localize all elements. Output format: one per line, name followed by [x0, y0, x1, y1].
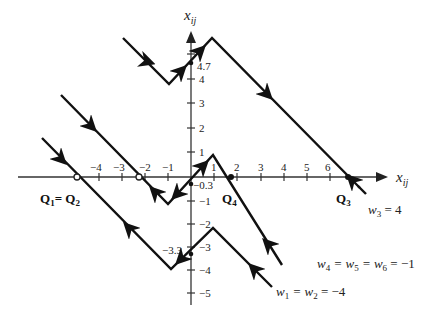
label-neg-3-3: −3.3 — [162, 244, 182, 256]
point-y-4-7 — [189, 61, 194, 66]
svg-text:−4: −4 — [199, 264, 211, 276]
svg-text:−4: −4 — [90, 161, 102, 173]
svg-text:2: 2 — [234, 161, 240, 173]
label-w12: w1 = w2 = −4 — [276, 284, 346, 301]
piecewise-linear-plot: xij xij −4 −3 −2 −1 1 2 3 4 5 6 — [0, 0, 440, 315]
point-q4 — [228, 174, 234, 180]
svg-text:−3: −3 — [199, 241, 211, 253]
svg-text:−1: −1 — [162, 161, 174, 173]
svg-text:−2: −2 — [139, 161, 151, 173]
point-y-neg-3-3 — [189, 252, 194, 257]
x-axis-label: xij — [395, 169, 408, 188]
label-q3: Q3 — [336, 191, 351, 208]
svg-text:4: 4 — [199, 73, 205, 85]
diagram: xij xij −4 −3 −2 −1 1 2 3 4 5 6 — [0, 0, 440, 315]
point-q3 — [345, 174, 351, 180]
svg-text:−1: −1 — [199, 195, 211, 207]
label-4-7: 4.7 — [197, 60, 211, 72]
x-axis-arrow-icon — [376, 172, 388, 182]
label-w3: w3 = 4 — [368, 202, 402, 219]
svg-text:−3: −3 — [113, 161, 125, 173]
curve-w456 — [61, 95, 282, 265]
svg-text:6: 6 — [325, 161, 331, 173]
svg-text:−5: −5 — [199, 287, 211, 299]
svg-text:4: 4 — [281, 161, 287, 173]
open-circle-neg-2 — [136, 174, 142, 180]
svg-text:1: 1 — [199, 146, 205, 158]
label-neg-0-3: −0.3 — [193, 179, 213, 191]
label-q4: Q4 — [222, 191, 237, 208]
open-circle-q1-q2 — [74, 174, 80, 180]
svg-text:5: 5 — [304, 161, 310, 173]
point-y-neg-0-3 — [189, 182, 194, 187]
label-w456: w4 = w5 = w6 = −1 — [317, 256, 415, 273]
svg-text:1: 1 — [211, 161, 217, 173]
svg-text:3: 3 — [199, 97, 205, 109]
label-q1-q2: Q1= Q2 — [40, 191, 80, 208]
y-axis-label: xij — [183, 7, 196, 26]
svg-text:2: 2 — [199, 122, 205, 134]
y-tick-labels: 4 3 2 1 −1 −2 −3 −4 −5 4.7 −0.3 −3.3 — [162, 60, 213, 299]
y-axis-arrow-icon — [186, 31, 196, 43]
svg-text:−2: −2 — [199, 218, 211, 230]
svg-text:3: 3 — [258, 161, 264, 173]
